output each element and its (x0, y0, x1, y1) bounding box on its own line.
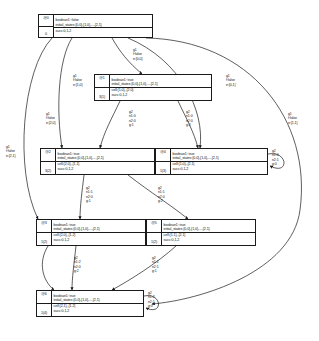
node-3-divider (37, 232, 51, 233)
edge-label-g2-e-line-1: n1:2 (74, 260, 81, 264)
edge-label-g2-self-6-line-3: g:0 (148, 304, 155, 308)
edge-label-g1-01: g1 f:false e:{0,1} (226, 74, 236, 87)
edge-0-3 (24, 38, 52, 219)
node-6-count: 1(4) (41, 311, 47, 315)
node-0-divider (39, 26, 53, 27)
node-4-count: 1(3) (160, 169, 166, 173)
node-5-divider (147, 232, 161, 233)
edge-label-g2-b: g2 n1:0 n2:0 g:2 (186, 110, 193, 127)
edge-label-g2-e-line-3: g:2 (74, 269, 81, 273)
edge-label-g2-self-6-line-1: n1:2 (148, 295, 155, 299)
node-5-count: 1(2) (151, 240, 157, 244)
node-0[interactable]: @0 0 boolean1: false initial_states:{0,0… (38, 14, 153, 38)
node-6-body: boolean1: true initial_states:{0,0},{1,0… (52, 291, 143, 316)
node-4-divider (156, 161, 170, 162)
edge-0-2 (59, 38, 72, 148)
node-6-index: @6 1(4) (37, 291, 52, 316)
node-4-index: @4 1(3) (156, 149, 171, 174)
node-3-count: 1(2) (41, 240, 47, 244)
node-2-body: boolean1: true initial_states:{0,0},{1,0… (56, 149, 154, 174)
edge-label-g2-b-line-3: g:2 (186, 123, 193, 127)
node-2-index: @2 3(2) (41, 149, 56, 174)
edge-label-g1-21: g1 f:false e:{2,1} (6, 145, 16, 158)
node-0-id: @0 (43, 16, 48, 20)
edge-label-g1-11-line-2: e:{1,1} (288, 121, 298, 125)
node-5-id: @5 (151, 221, 156, 225)
edge-label-g2-self-4-line-1: n1:0 (272, 153, 279, 157)
edge-label-g2-self-6: g2 n1:2 n2:1 g:0 (148, 291, 155, 308)
edge-label-g2-d-line-3: g:2 (158, 199, 165, 203)
edge-label-g1-11-line-1: f:false (288, 116, 298, 120)
edge-label-g2-self-4-line-3: g:0 (272, 162, 279, 166)
node-2-count: 3(2) (45, 169, 51, 173)
node-1-row-succ: succ:0,1,2 (112, 93, 210, 98)
node-6-row-succ: succ:0,1,2 (54, 309, 142, 314)
edge-label-g1-10: g1 f:false e:{1,0} (73, 74, 83, 87)
node-1-divider (95, 87, 109, 88)
edge-label-g1-00-line-1: f:false (133, 52, 143, 56)
node-0-row-succ: succ:0,1,2 (54, 27, 152, 33)
node-3-id: @3 (41, 221, 46, 225)
node-1-index: @1 3(1) (95, 75, 110, 100)
node-2-id: @2 (45, 150, 50, 154)
node-5[interactable]: @5 1(2) boolean1: true initial_states:{0… (146, 219, 256, 246)
node-6-divider (37, 303, 51, 304)
node-4[interactable]: @4 1(3) boolean1: true initial_states:{0… (155, 148, 268, 175)
node-1-body: boolean1: true initial_states:{0,0},{1,0… (110, 75, 211, 100)
edge-label-g2-d-line-1: n1:1 (158, 190, 165, 194)
node-6[interactable]: @6 1(4) boolean1: true initial_states:{0… (36, 290, 144, 317)
node-3-row-succ: succ:0,1,2 (54, 238, 144, 243)
edge-label-g1-20-line-1: f:false (46, 116, 56, 120)
node-3-body: boolean1: true initial_states:{0,0},{1,0… (52, 220, 145, 245)
edge-label-g2-f-line-1: n1:1 (152, 260, 159, 264)
edge-label-g1-20-line-2: e:{2,0} (46, 121, 56, 125)
node-0-body: boolean1: false initial_states:{0,0},{1,… (54, 15, 152, 37)
node-1[interactable]: @1 3(1) boolean1: true initial_states:{0… (94, 74, 212, 101)
edge-label-g2-b-line-1: n1:0 (186, 114, 193, 118)
edge-label-g2-c: g2 n1:1 n2:0 g:1 (86, 186, 93, 203)
edge-label-g2-self-4: g2 n1:0 n2:1 g:0 (272, 149, 279, 166)
edge-label-g1-11: g1 f:false e:{1,1} (288, 112, 298, 125)
edge-label-g1-21-line-1: f:false (6, 149, 16, 153)
diagram-canvas: @0 0 boolean1: false initial_states:{0,0… (0, 0, 319, 341)
node-3-index: @3 1(2) (37, 220, 52, 245)
edge-label-g1-00-line-2: e:{0,0} (133, 57, 143, 61)
edge-label-g2-a-line-3: g:1 (129, 123, 136, 127)
node-4-id: @4 (160, 150, 165, 154)
node-0-index: @0 0 (39, 15, 54, 37)
node-4-row-succ: succ:0,1,2 (173, 167, 266, 172)
edge-label-g2-c-line-1: n1:1 (86, 190, 93, 194)
edge-2-3 (80, 175, 84, 219)
edge-label-g1-10-line-1: f:false (73, 78, 83, 82)
edge-label-g2-c-line-3: g:1 (86, 199, 93, 203)
node-4-body: boolean1: true initial_states:{0,0},{1,0… (171, 149, 267, 174)
node-5-body: boolean1: true initial_states:{0,0},{1,0… (162, 220, 255, 245)
node-1-id: @1 (99, 76, 104, 80)
node-2[interactable]: @2 3(2) boolean1: true initial_states:{0… (40, 148, 155, 175)
edge-label-g2-e: g2 n1:2 n2:0 g:2 (74, 256, 81, 273)
edge-label-g2-f-line-3: g:1 (152, 269, 159, 273)
node-6-id: @6 (41, 292, 46, 296)
edge-2-6 (42, 246, 54, 290)
edge-1-2 (100, 101, 120, 148)
edge-label-g2-d: g2 n1:1 n2:0 g:2 (158, 186, 165, 203)
node-3[interactable]: @3 1(2) boolean1: true initial_states:{0… (36, 219, 146, 246)
node-5-index: @5 1(2) (147, 220, 162, 245)
edge-label-g1-21-line-2: e:{2,1} (6, 154, 16, 158)
node-2-divider (41, 161, 55, 162)
edge-label-g1-01-line-1: f:false (226, 78, 236, 82)
edge-label-g2-a-line-1: n1:0 (129, 114, 136, 118)
edge-label-g2-a: g2 n1:0 n2:0 g:1 (129, 110, 136, 127)
edge-label-g1-20: g1 f:false e:{2,0} (46, 112, 56, 125)
node-1-count: 3(1) (99, 95, 105, 99)
node-2-row-succ: succ:0,1,2 (58, 167, 153, 172)
node-5-row-succ: succ:0,1,2 (164, 238, 254, 243)
edge-5-6 (112, 246, 176, 290)
edge-label-g1-01-line-2: e:{0,1} (226, 83, 236, 87)
node-0-count: 0 (45, 32, 47, 36)
edge-label-g1-00: g1 f:false e:{0,0} (133, 48, 143, 61)
edge-label-g1-10-line-2: e:{1,0} (73, 83, 83, 87)
edge-label-g2-f: g2 n1:1 n2:1 g:1 (152, 256, 159, 273)
